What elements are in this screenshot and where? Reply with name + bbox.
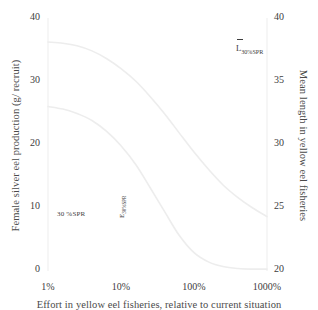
y-right-tick-20: 20 bbox=[274, 263, 302, 274]
chart-plot-area bbox=[0, 0, 318, 310]
mean-length-curve bbox=[48, 42, 267, 217]
x-axis-title: Effort in yellow eel fisheries, relative… bbox=[0, 299, 318, 310]
annotation-e-30-spr: E30%SPR bbox=[118, 196, 127, 218]
silver-eel-production-curve bbox=[48, 107, 267, 270]
annotation-l-30-spr: L30%SPR bbox=[236, 43, 263, 55]
x-tick-100pct: 100% bbox=[170, 281, 218, 292]
annotation-e-main: E bbox=[118, 214, 126, 218]
x-tick-1000pct: 1000% bbox=[243, 281, 291, 292]
y-right-tick-25: 25 bbox=[274, 200, 302, 211]
y-left-tick-20: 20 bbox=[12, 137, 40, 148]
x-tick-10pct: 10% bbox=[97, 281, 145, 292]
y-right-tick-40: 40 bbox=[274, 11, 302, 22]
y-right-tick-35: 35 bbox=[274, 74, 302, 85]
overbar-icon bbox=[237, 39, 243, 40]
y-left-tick-0: 0 bbox=[12, 263, 40, 274]
annotation-l-main-wrap: L bbox=[236, 43, 241, 53]
annotation-l-sub: 30%SPR bbox=[241, 49, 263, 55]
annotation-l-main: L bbox=[236, 43, 241, 53]
x-tick-1pct: 1% bbox=[24, 281, 72, 292]
chart-figure: Female silver eel production (g/ recruit… bbox=[0, 0, 318, 310]
y-left-tick-10: 10 bbox=[12, 200, 40, 211]
annotation-e-sub: 30%SPR bbox=[122, 196, 127, 214]
y-right-tick-30: 30 bbox=[274, 137, 302, 148]
y-left-tick-30: 30 bbox=[12, 74, 40, 85]
annotation-30-percent-spr: 30 %SPR bbox=[57, 210, 85, 218]
y-left-tick-40: 40 bbox=[12, 11, 40, 22]
